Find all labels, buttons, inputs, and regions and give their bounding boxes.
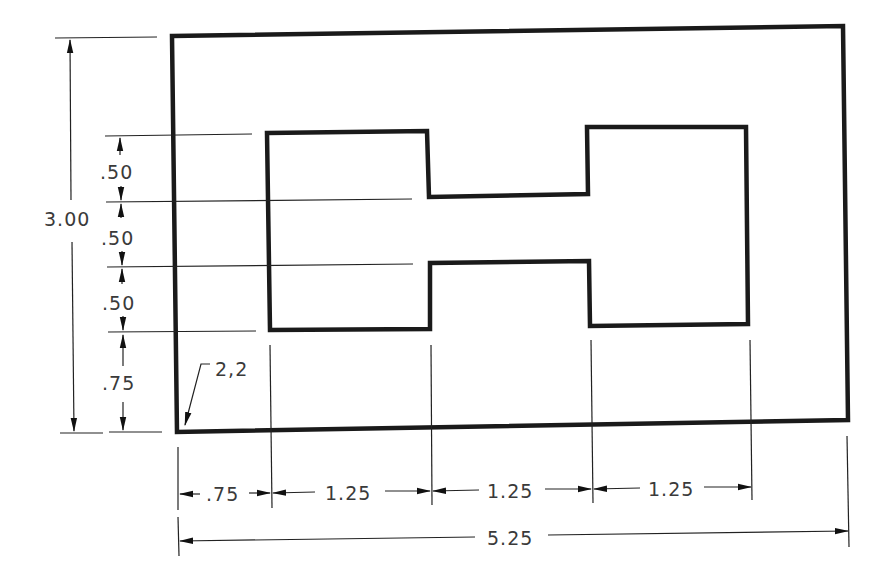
dim-left-block-width: 1.25 xyxy=(273,482,430,504)
label-overall-width: 5.25 xyxy=(487,527,533,549)
dim-overall-width: 5.25 xyxy=(180,527,848,549)
label-right-block-width: 1.25 xyxy=(648,478,694,500)
dim-lower-step: .50 xyxy=(102,269,135,330)
label-lower-step: .50 xyxy=(102,292,135,314)
label-origin-coordinate: 2,2 xyxy=(215,358,248,380)
dim-left-offset: .75 xyxy=(180,483,270,505)
label-left-block-width: 1.25 xyxy=(325,482,371,504)
dim-right-block-width: 1.25 xyxy=(594,478,751,500)
dim-bottom-offset: .75 xyxy=(102,335,135,430)
extension-lines-bottom xyxy=(178,340,849,556)
label-bottom-offset: .75 xyxy=(102,372,135,394)
dim-top-step: .50 xyxy=(100,138,133,200)
label-center-neck-width: 1.25 xyxy=(487,480,533,502)
label-middle-slot: .50 xyxy=(101,227,134,249)
origin-leader: 2,2 xyxy=(185,358,248,425)
label-left-offset: .75 xyxy=(206,483,239,505)
dim-center-neck-width: 1.25 xyxy=(433,480,591,502)
dim-middle-slot: .50 xyxy=(101,204,134,265)
extension-lines-left xyxy=(105,134,413,432)
technical-drawing: 3.00 .50 .50 .50 .75 2,2 xyxy=(0,0,888,583)
label-overall-height: 3.00 xyxy=(44,208,90,230)
label-top-step: .50 xyxy=(100,161,133,183)
h-shaped-cutout xyxy=(267,127,748,330)
